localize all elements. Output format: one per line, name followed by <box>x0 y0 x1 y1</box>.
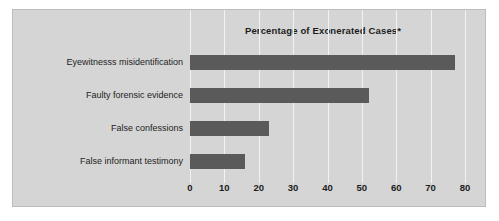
tick-mark-70 <box>431 178 432 183</box>
x-tick-label-50: 50 <box>347 182 377 193</box>
bar-1 <box>190 88 369 103</box>
tick-mark-50 <box>362 178 363 183</box>
tick-mark-0 <box>190 178 191 183</box>
plot-area: Eyewitnesss misidentificationFaulty fore… <box>190 46 465 178</box>
gridline-top-extension-40 <box>328 10 329 46</box>
gridline-top-extension-30 <box>293 10 294 46</box>
tick-mark-80 <box>465 178 466 183</box>
bar-2 <box>190 121 269 136</box>
chart-figure: Percentage of Exonerated Cases* Eyewitne… <box>0 0 499 221</box>
bar-row: Eyewitnesss misidentification <box>190 46 465 79</box>
tick-mark-30 <box>293 178 294 183</box>
tick-mark-40 <box>328 178 329 183</box>
category-label-1: Faulty forensic evidence <box>86 88 183 103</box>
chart-panel: Percentage of Exonerated Cases* Eyewitne… <box>12 9 486 207</box>
category-label-3: False informant testimony <box>80 154 183 169</box>
gridline-top-extension-60 <box>396 10 397 46</box>
gridline-top-extension-50 <box>362 10 363 46</box>
gridline-top-extension-0 <box>190 10 191 46</box>
bar-3 <box>190 154 245 169</box>
x-tick-label-40: 40 <box>313 182 343 193</box>
x-axis-tick-labels: 01020304050607080 <box>190 182 465 198</box>
x-tick-label-0: 0 <box>175 182 205 193</box>
chart-title: Percentage of Exonerated Cases* <box>178 25 468 36</box>
gridline-top-extension-20 <box>259 10 260 46</box>
tick-mark-20 <box>259 178 260 183</box>
category-label-0: Eyewitnesss misidentification <box>66 55 183 70</box>
x-tick-label-20: 20 <box>244 182 274 193</box>
bar-0 <box>190 55 455 70</box>
bar-row: False informant testimony <box>190 145 465 178</box>
bar-row: False confessions <box>190 112 465 145</box>
gridline-80 <box>465 46 466 178</box>
bar-row: Faulty forensic evidence <box>190 79 465 112</box>
x-tick-label-30: 30 <box>278 182 308 193</box>
gridline-top-extension-80 <box>465 10 466 46</box>
gridline-top-extension-10 <box>224 10 225 46</box>
x-tick-label-80: 80 <box>450 182 480 193</box>
gridline-top-extension-70 <box>431 10 432 46</box>
category-label-2: False confessions <box>111 121 183 136</box>
tick-mark-60 <box>396 178 397 183</box>
x-tick-label-60: 60 <box>381 182 411 193</box>
x-tick-label-70: 70 <box>416 182 446 193</box>
tick-mark-10 <box>224 178 225 183</box>
x-tick-label-10: 10 <box>209 182 239 193</box>
